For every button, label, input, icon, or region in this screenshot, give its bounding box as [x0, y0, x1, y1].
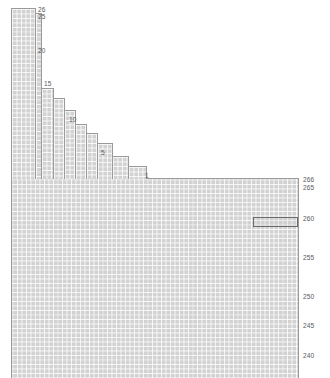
right-tick-label-266: 266: [303, 176, 314, 183]
step-column-26: [11, 8, 36, 179]
left-tick-label-5: 5: [101, 149, 105, 156]
left-tick-label-26: 26: [38, 6, 45, 13]
step-column-5: [112, 156, 129, 179]
left-tick-label-20: 20: [38, 47, 45, 54]
main-grid-block: [11, 178, 299, 378]
right-tick-label-245: 245: [303, 322, 314, 329]
right-tick-label-250: 250: [303, 293, 314, 300]
right-tick-label-260: 260: [303, 215, 314, 222]
left-tick-label-25: 25: [38, 13, 45, 20]
left-tick-label-1: 1: [145, 172, 149, 179]
right-tick-label-255: 255: [303, 254, 314, 261]
left-tick-label-15: 15: [44, 80, 51, 87]
chart-canvas: 26 25 20 15 10 5 1 266 265 260 255 250 2…: [0, 0, 330, 378]
step-column-8: [97, 143, 113, 179]
right-tick-label-265: 265: [303, 184, 314, 191]
highlighted-range-box[interactable]: [253, 217, 298, 227]
right-tick-label-240: 240: [303, 352, 314, 359]
left-tick-label-10: 10: [69, 116, 76, 123]
